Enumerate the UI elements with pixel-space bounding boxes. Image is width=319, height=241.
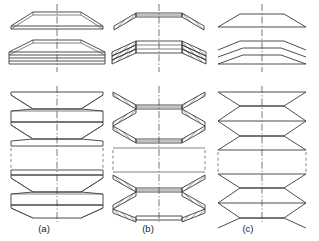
column-a-outline-view [9, 4, 105, 222]
column-b-sectioned-view [112, 4, 206, 222]
caption-a: (a) [38, 224, 50, 234]
disc-spring-figure: (a) (b) (c) [0, 0, 319, 241]
figure-canvas [0, 0, 319, 241]
column-c-simplified-view [218, 4, 306, 228]
caption-b: (b) [142, 224, 154, 234]
caption-c: (c) [242, 224, 253, 234]
